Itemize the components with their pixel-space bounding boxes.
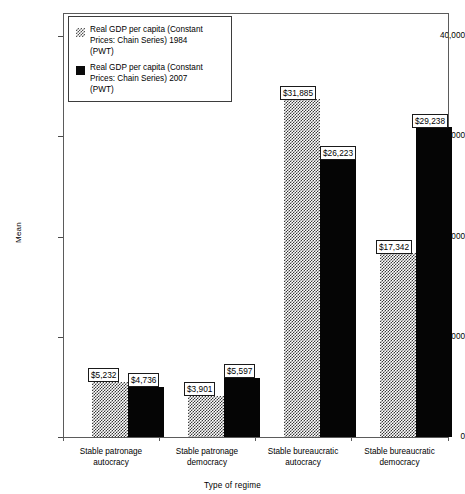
bar-series1-cat2[interactable] (188, 396, 224, 437)
bar-series2-cat4[interactable] (416, 127, 452, 437)
data-label-series1-cat3: $31,885 (280, 86, 316, 100)
legend-label-1984: Real GDP per capita (Constant Prices: Ch… (90, 24, 203, 58)
bar-chart: Mean 40,000 30,000 20,000 10,000 0 $5,23… (0, 0, 465, 494)
legend-swatch-hatch-icon (76, 28, 85, 37)
bar-series2-cat3[interactable] (320, 159, 356, 437)
bar-series1-cat4[interactable] (380, 253, 416, 437)
data-label-series1-cat2: $3,901 (184, 382, 215, 396)
bar-group-stable-bureaucratic-democracy: $17,342 $29,238 (375, 13, 447, 437)
legend-entry-2007[interactable]: Real GDP per capita (Constant Prices: Ch… (76, 62, 228, 96)
legend-entry-1984[interactable]: Real GDP per capita (Constant Prices: Ch… (76, 24, 228, 58)
bar-series1-cat3[interactable] (284, 99, 320, 437)
data-label-series2-cat2: $5,597 (224, 364, 255, 378)
x-tick-mark-1 (63, 437, 64, 441)
bar-series2-cat2[interactable] (224, 378, 260, 437)
bar-group-stable-bureaucratic-autocracy: $31,885 $26,223 (279, 13, 351, 437)
legend: Real GDP per capita (Constant Prices: Ch… (68, 16, 232, 102)
y-axis-title: Mean (14, 203, 23, 263)
x-axis-baseline (63, 437, 449, 438)
legend-swatch-solid-icon (76, 66, 85, 75)
data-label-series2-cat4: $29,238 (412, 114, 448, 128)
x-tick-mark-5 (448, 437, 449, 441)
x-tick-mark-3 (255, 437, 256, 441)
data-label-series2-cat3: $26,223 (320, 146, 356, 160)
x-cat-label-4: Stable bureaucratic democracy (351, 447, 448, 468)
data-label-series1-cat4: $17,342 (376, 240, 412, 254)
data-label-series2-cat1: $4,736 (128, 373, 159, 387)
x-axis-title: Type of regime (0, 481, 465, 490)
legend-label-2007: Real GDP per capita (Constant Prices: Ch… (90, 62, 203, 96)
x-cat-label-1: Stable patronage autocracy (63, 447, 159, 468)
bar-series1-cat1[interactable] (92, 382, 128, 438)
x-tick-mark-4 (351, 437, 352, 441)
x-cat-label-3: Stable bureaucratic autocracy (255, 447, 351, 468)
data-label-series1-cat1: $5,232 (88, 368, 119, 382)
x-cat-label-2: Stable patronage democracy (159, 447, 255, 468)
bar-series2-cat1[interactable] (128, 387, 164, 437)
x-tick-mark-2 (159, 437, 160, 441)
